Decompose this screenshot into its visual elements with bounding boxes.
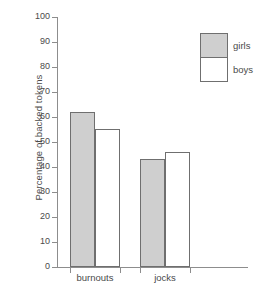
y-tick-30 xyxy=(52,192,58,193)
y-tick-label-60-wrap: 60 xyxy=(0,112,50,122)
bar-jocks-boys xyxy=(165,152,190,267)
y-tick-label-70: 70 xyxy=(2,87,50,96)
legend-swatch-boys xyxy=(200,57,228,82)
y-tick-60 xyxy=(52,117,58,118)
y-tick-label-10-wrap: 10 xyxy=(0,237,50,247)
y-tick-label-70-wrap: 70 xyxy=(0,87,50,97)
y-tick-40 xyxy=(52,167,58,168)
bar-chart: Percentage of backed tokens 100 90 80 70… xyxy=(0,0,261,292)
y-tick-label-0-wrap: 0 xyxy=(0,262,50,272)
y-tick-label-40-wrap: 40 xyxy=(0,162,50,172)
x-category-label-jocks: jocks xyxy=(130,273,200,283)
y-tick-label-90-wrap: 90 xyxy=(0,37,50,47)
x-axis-line xyxy=(57,267,248,268)
y-tick-label-40: 40 xyxy=(2,162,50,171)
y-tick-label-20-wrap: 20 xyxy=(0,212,50,222)
y-tick-label-60: 60 xyxy=(2,112,50,121)
legend-label-boys: boys xyxy=(233,65,253,75)
y-tick-label-30: 30 xyxy=(2,187,50,196)
y-tick-label-100-wrap: 100 xyxy=(0,12,50,22)
legend-label-girls: girls xyxy=(233,41,250,51)
y-tick-label-30-wrap: 30 xyxy=(0,187,50,197)
y-tick-label-20: 20 xyxy=(2,212,50,221)
legend-swatch-girls xyxy=(200,33,228,58)
y-tick-0 xyxy=(52,267,58,268)
y-tick-100 xyxy=(52,17,58,18)
y-tick-label-50: 50 xyxy=(2,137,50,146)
y-tick-label-90: 90 xyxy=(2,37,50,46)
bar-jocks-girls xyxy=(140,159,165,267)
y-tick-label-0: 0 xyxy=(2,262,50,271)
y-tick-label-80: 80 xyxy=(2,62,50,71)
y-tick-90 xyxy=(52,42,58,43)
y-tick-label-50-wrap: 50 xyxy=(0,137,50,147)
y-tick-10 xyxy=(52,242,58,243)
y-tick-label-100: 100 xyxy=(2,12,50,21)
y-tick-50 xyxy=(52,142,58,143)
y-tick-label-80-wrap: 80 xyxy=(0,62,50,72)
y-tick-20 xyxy=(52,217,58,218)
x-category-label-burnouts: burnouts xyxy=(55,273,135,283)
legend: girls boys xyxy=(200,33,228,83)
y-tick-80 xyxy=(52,67,58,68)
y-tick-70 xyxy=(52,92,58,93)
y-tick-label-10: 10 xyxy=(2,237,50,246)
bar-burnouts-girls xyxy=(70,112,95,267)
bar-burnouts-boys xyxy=(95,129,120,267)
